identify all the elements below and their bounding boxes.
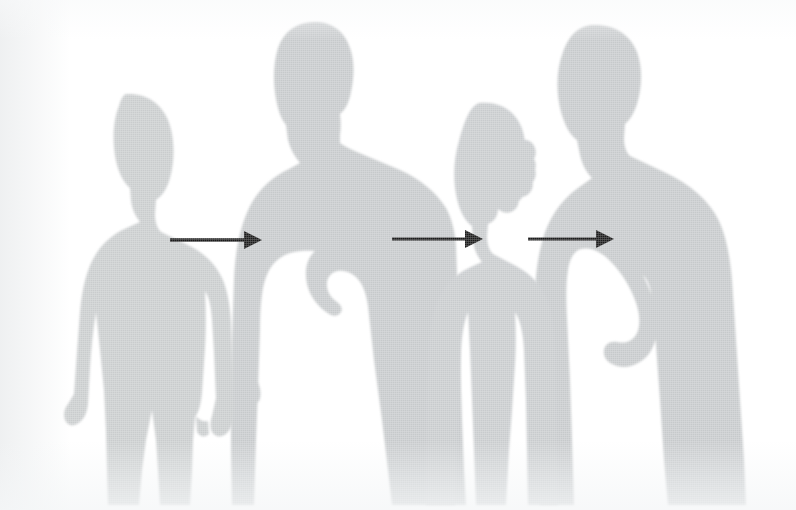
- image-canvas: [0, 0, 796, 510]
- silhouette-scene: [0, 0, 796, 510]
